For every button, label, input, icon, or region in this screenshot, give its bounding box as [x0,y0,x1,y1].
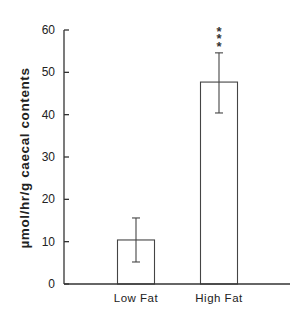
significance-marker: * [216,39,222,54]
y-tick-label: 50 [42,65,56,79]
y-tick-label: 0 [48,277,55,291]
y-tick-label: 10 [42,235,56,249]
y-axis-ticks: 0102030405060 [42,23,69,291]
x-axis-labels: Low FatHigh Fat [114,292,243,304]
y-tick-label: 30 [42,150,56,164]
category-label: Low Fat [114,292,159,304]
y-tick-label: 60 [42,23,56,37]
y-tick-label: 40 [42,108,56,122]
bar-chart: 0102030405060 *** Low FatHigh Fat µmol/h… [0,0,306,318]
y-axis-label: µmol/hr/g caecal contents [17,67,32,248]
bars: *** [118,24,238,284]
y-tick-label: 20 [42,192,56,206]
category-label: High Fat [195,292,243,304]
